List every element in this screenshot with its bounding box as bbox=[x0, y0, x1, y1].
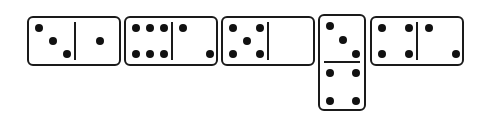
pip bbox=[63, 50, 71, 58]
pip bbox=[425, 24, 433, 32]
pip bbox=[96, 37, 104, 45]
pip bbox=[405, 24, 413, 32]
domino-divider bbox=[416, 22, 418, 60]
domino-divider bbox=[324, 61, 360, 63]
pip bbox=[378, 24, 386, 32]
domino-5: 4-2 bbox=[370, 16, 464, 66]
pip bbox=[256, 24, 264, 32]
pip bbox=[146, 50, 154, 58]
pip bbox=[378, 50, 386, 58]
domino-2: 6-2 bbox=[124, 16, 218, 66]
pip bbox=[35, 24, 43, 32]
pip bbox=[229, 24, 237, 32]
pip bbox=[229, 50, 237, 58]
domino-4: 3-4 bbox=[318, 14, 366, 111]
domino-divider bbox=[171, 22, 173, 60]
pip bbox=[452, 50, 460, 58]
pip bbox=[132, 24, 140, 32]
domino-divider bbox=[74, 22, 76, 60]
pip bbox=[352, 50, 360, 58]
pip bbox=[160, 24, 168, 32]
pip bbox=[352, 97, 360, 105]
domino-1: 3-1 bbox=[27, 16, 121, 66]
pip bbox=[160, 50, 168, 58]
domino-divider bbox=[267, 22, 269, 60]
pip bbox=[339, 36, 347, 44]
pip bbox=[206, 50, 214, 58]
pip bbox=[326, 97, 334, 105]
pip bbox=[49, 37, 57, 45]
pip bbox=[326, 22, 334, 30]
domino-3: 5-0 bbox=[221, 16, 315, 66]
pip bbox=[132, 50, 140, 58]
pip bbox=[326, 69, 334, 77]
pip bbox=[405, 50, 413, 58]
pip bbox=[256, 50, 264, 58]
pip bbox=[352, 69, 360, 77]
pip bbox=[146, 24, 154, 32]
pip bbox=[243, 37, 251, 45]
pip bbox=[179, 24, 187, 32]
